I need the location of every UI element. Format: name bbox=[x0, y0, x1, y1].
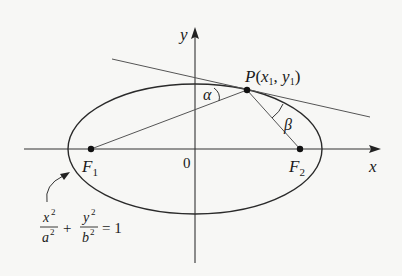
y-axis-label: y bbox=[178, 25, 188, 44]
beta-label: β bbox=[283, 116, 292, 134]
svg-text:= 1: = 1 bbox=[102, 220, 122, 236]
svg-text:b: b bbox=[82, 230, 89, 245]
pointer-arrowhead-icon bbox=[60, 172, 70, 180]
equation-pointer-arrow bbox=[47, 176, 63, 202]
svg-text:+: + bbox=[63, 220, 71, 236]
svg-text:2: 2 bbox=[91, 207, 96, 217]
focus-1-label: F1 bbox=[81, 157, 98, 178]
alpha-arc bbox=[214, 88, 219, 101]
x-axis-label: x bbox=[368, 157, 377, 176]
svg-text:a: a bbox=[42, 230, 49, 245]
svg-text:y: y bbox=[81, 210, 90, 225]
focus-2-label: F2 bbox=[288, 157, 305, 178]
point-p-label: P(x1, y1) bbox=[244, 67, 300, 87]
point-p-dot bbox=[244, 87, 250, 93]
svg-text:2: 2 bbox=[50, 227, 55, 237]
focal-radius-2 bbox=[247, 90, 300, 149]
focus-1-dot bbox=[88, 146, 94, 152]
ellipse-diagram: y x 0 F1 F2 P(x1, y1) α β x 2 a 2 + y 2 … bbox=[0, 0, 402, 276]
alpha-label: α bbox=[203, 86, 212, 103]
svg-text:2: 2 bbox=[90, 227, 95, 237]
focus-2-dot bbox=[297, 146, 303, 152]
svg-text:x: x bbox=[42, 210, 50, 225]
beta-arc bbox=[272, 104, 283, 118]
ellipse-equation: x 2 a 2 + y 2 b 2 = 1 bbox=[40, 207, 122, 245]
svg-text:2: 2 bbox=[51, 207, 56, 217]
origin-label: 0 bbox=[183, 155, 191, 171]
